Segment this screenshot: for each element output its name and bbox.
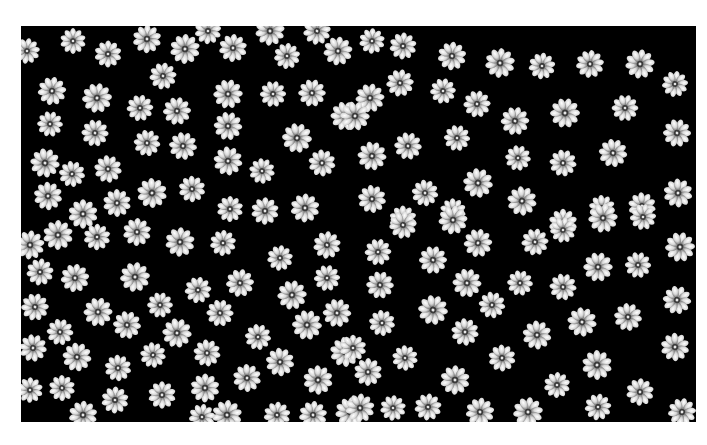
particle <box>182 274 214 306</box>
particle-field <box>21 26 696 422</box>
particle <box>147 60 180 92</box>
particle <box>24 256 56 287</box>
particle <box>77 115 113 150</box>
particle <box>223 266 257 300</box>
particle <box>661 229 696 266</box>
particle <box>188 334 226 371</box>
particle <box>209 107 247 144</box>
particle <box>260 342 300 381</box>
particle <box>54 156 90 192</box>
particle <box>190 373 220 403</box>
particle <box>543 371 571 399</box>
particle <box>169 33 201 65</box>
particle <box>621 248 655 282</box>
particle <box>387 340 423 376</box>
particle <box>143 289 176 322</box>
particle <box>67 400 98 422</box>
particle <box>545 145 582 181</box>
particle <box>510 395 545 422</box>
particle <box>527 51 558 81</box>
particle <box>159 94 194 129</box>
particle <box>427 75 459 106</box>
particle <box>28 176 68 216</box>
particle <box>42 220 73 250</box>
particle <box>21 229 47 261</box>
particle <box>582 391 614 422</box>
particle <box>227 358 266 397</box>
particle <box>407 175 444 211</box>
particle <box>446 313 484 351</box>
particle <box>100 386 129 415</box>
particle <box>80 294 117 330</box>
particle <box>517 315 557 355</box>
particle <box>135 337 170 372</box>
particle <box>253 26 286 47</box>
particle <box>164 226 196 258</box>
particle <box>108 306 145 343</box>
particle <box>58 261 92 294</box>
particle <box>210 399 243 422</box>
particle <box>262 400 292 422</box>
particle <box>256 78 289 111</box>
particle <box>594 134 633 173</box>
particle <box>68 199 98 228</box>
particle <box>379 394 408 422</box>
particle <box>501 141 536 175</box>
particle <box>173 170 211 207</box>
particle <box>579 248 617 285</box>
particle <box>89 150 127 188</box>
particle <box>353 358 382 387</box>
particle <box>658 173 696 214</box>
particle <box>665 395 696 422</box>
particle <box>448 264 486 302</box>
particle <box>388 31 418 60</box>
particle <box>21 329 52 366</box>
particle <box>353 137 392 175</box>
particle <box>209 76 246 113</box>
particle <box>464 396 497 422</box>
particle <box>287 306 326 345</box>
particle <box>123 92 156 125</box>
micrograph-frame <box>21 26 696 422</box>
particle <box>321 34 355 67</box>
particle <box>131 172 173 214</box>
particle <box>297 359 339 400</box>
particle <box>277 118 317 158</box>
particle <box>439 365 470 396</box>
particle <box>390 128 427 164</box>
particle <box>623 47 658 81</box>
particle <box>208 229 237 257</box>
particle <box>574 48 607 80</box>
particle <box>659 69 690 100</box>
particle <box>625 377 655 407</box>
particle <box>265 243 295 272</box>
particle <box>415 242 451 277</box>
particle <box>99 349 136 386</box>
particle <box>413 290 453 330</box>
particle <box>202 296 237 331</box>
particle <box>362 267 398 303</box>
particle <box>318 295 355 332</box>
particle <box>460 87 494 120</box>
particle <box>483 339 521 377</box>
particle <box>502 181 543 222</box>
particle <box>217 33 248 63</box>
particle <box>353 180 392 219</box>
particle <box>497 103 533 139</box>
particle <box>562 302 603 342</box>
particle <box>659 115 695 151</box>
particle <box>294 75 329 110</box>
particle <box>60 28 86 54</box>
particle <box>458 163 499 204</box>
particle <box>503 266 537 300</box>
particle <box>546 94 584 132</box>
particle <box>208 141 248 181</box>
particle <box>250 197 279 226</box>
particle <box>383 67 416 100</box>
particle <box>413 392 444 422</box>
particle <box>21 290 52 324</box>
particle <box>148 381 176 409</box>
particle <box>25 143 65 183</box>
particle <box>35 74 70 108</box>
particle <box>97 183 137 223</box>
